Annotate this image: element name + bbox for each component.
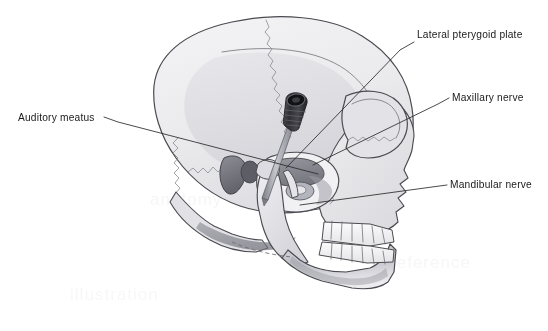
label-maxillary-nerve: Maxillary nerve (452, 92, 524, 103)
watermark-line-2: reference (390, 253, 471, 272)
label-mandibular-nerve: Mandibular nerve (450, 179, 532, 190)
anatomical-figure: anatomy reference illustration (0, 0, 548, 331)
skull-diagram-svg: anatomy reference illustration (0, 0, 548, 331)
label-lateral-pterygoid-plate: Lateral pterygoid plate (417, 29, 523, 40)
watermark-line-3: illustration (70, 285, 159, 304)
mandibular-teeth (319, 242, 394, 264)
label-auditory-meatus: Auditory meatus (18, 112, 95, 123)
